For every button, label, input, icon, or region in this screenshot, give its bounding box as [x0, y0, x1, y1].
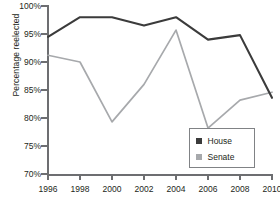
reelection-rate-line-chart: Percentage reelected 70%75%80%85%90%95%1…: [0, 0, 280, 204]
house-swatch-icon: [195, 137, 203, 145]
series-line-senate: [48, 30, 272, 128]
plot-area: [0, 0, 280, 204]
chart-legend: House Senate: [189, 128, 255, 168]
legend-label-house: House: [208, 136, 233, 146]
legend-item-house: House: [195, 133, 254, 149]
senate-swatch-icon: [195, 153, 203, 161]
legend-item-senate: Senate: [195, 149, 254, 165]
legend-label-senate: Senate: [208, 152, 235, 162]
